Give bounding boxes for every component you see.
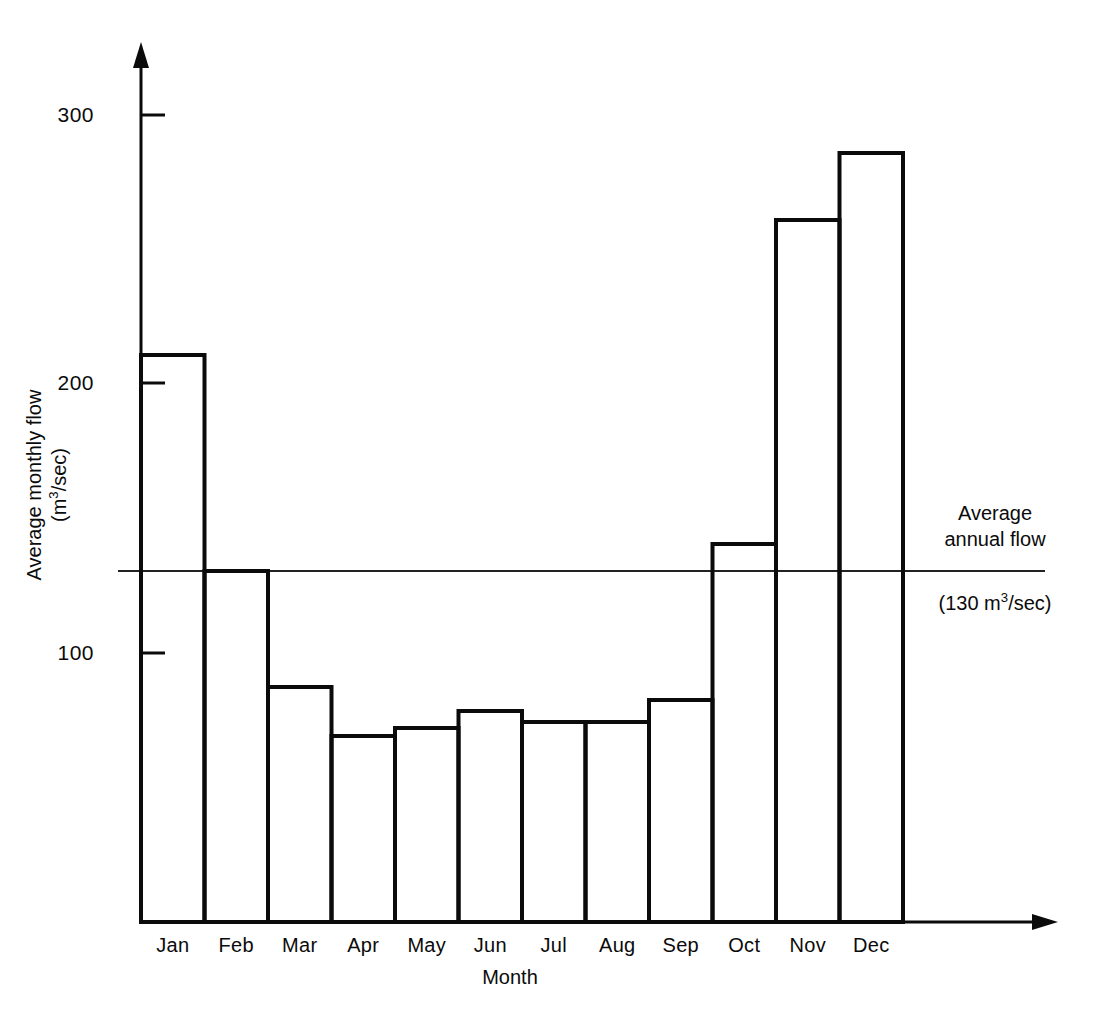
bar-apr: [332, 736, 396, 922]
bar-jun: [459, 711, 523, 922]
x-axis-title: Month: [0, 966, 1020, 989]
bar-jul: [522, 722, 586, 922]
x-tick-label-may: May: [395, 934, 459, 957]
bar-feb: [205, 571, 269, 922]
x-tick-label-dec: Dec: [840, 934, 904, 957]
chart-page: 300 200 100 Average monthly flow (m3/sec…: [0, 0, 1103, 1026]
y-axis-ticks: [141, 115, 165, 653]
annotation-value-suffix: /sec): [1008, 592, 1051, 614]
x-tick-label-oct: Oct: [713, 934, 777, 957]
annotation-line-2: annual flow: [905, 526, 1085, 552]
bar-oct: [713, 544, 777, 922]
annotation-value-prefix: (130 m: [939, 592, 1001, 614]
bar-dec: [840, 153, 904, 922]
bars-group: [141, 153, 903, 922]
bar-sep: [649, 700, 713, 922]
y-axis-title: Average monthly flow (m3/sec): [22, 320, 72, 650]
x-tick-label-jul: Jul: [522, 934, 586, 957]
x-tick-label-apr: Apr: [332, 934, 396, 957]
y-axis-title-line1: Average monthly flow: [23, 390, 45, 581]
bar-aug: [586, 722, 650, 922]
x-tick-label-aug: Aug: [586, 934, 650, 957]
x-tick-label-nov: Nov: [776, 934, 840, 957]
x-tick-label-jan: Jan: [141, 934, 205, 957]
bar-may: [395, 728, 459, 922]
bar-mar: [268, 687, 332, 922]
annotation-line-1: Average: [905, 500, 1085, 526]
x-tick-label-sep: Sep: [649, 934, 713, 957]
y-tick-label-300: 300: [46, 103, 94, 127]
y-axis-title-unit-prefix: (m: [48, 499, 70, 522]
x-tick-label-feb: Feb: [205, 934, 269, 957]
y-axis-title-unit-suffix: /sec): [48, 448, 70, 491]
x-tick-label-mar: Mar: [268, 934, 332, 957]
annotation-line-3: (130 m3/sec): [905, 590, 1085, 616]
y-axis-title-unit-exponent: 3: [46, 491, 61, 498]
average-annual-flow-annotation: Average annual flow (130 m3/sec): [905, 500, 1085, 616]
y-axis-title-line2: (m3/sec): [48, 448, 70, 522]
x-tick-label-jun: Jun: [459, 934, 523, 957]
bar-jan: [141, 355, 205, 922]
